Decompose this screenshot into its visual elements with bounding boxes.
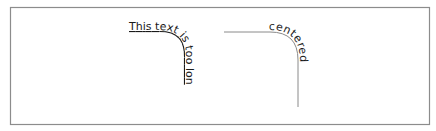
figure-frame	[11, 8, 430, 125]
textpath-demo-canvas: This text is too lon centered	[0, 0, 436, 131]
